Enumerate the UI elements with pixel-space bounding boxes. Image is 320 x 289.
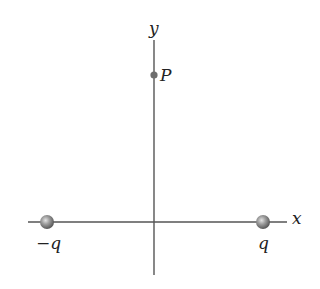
- positive-charge-label: q: [258, 235, 269, 252]
- x-axis-label: x: [292, 210, 302, 227]
- point-p-label: P: [160, 67, 171, 84]
- y-axis-label: y: [149, 20, 159, 37]
- negative-charge: [40, 215, 54, 229]
- negative-charge-label: −q: [36, 235, 61, 252]
- point-p-marker: [150, 71, 157, 78]
- positive-charge: [256, 215, 270, 229]
